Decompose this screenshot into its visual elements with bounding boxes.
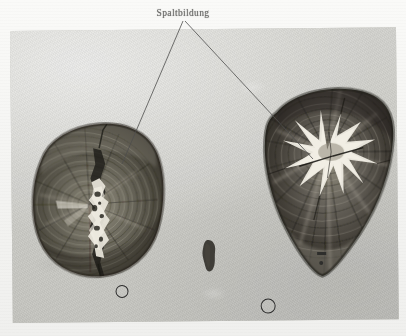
leader-line-left xyxy=(122,21,183,164)
figure-plate-container: Spaltbildung xyxy=(0,0,406,336)
leader-line-right xyxy=(185,21,313,159)
leader-lines xyxy=(0,0,406,336)
